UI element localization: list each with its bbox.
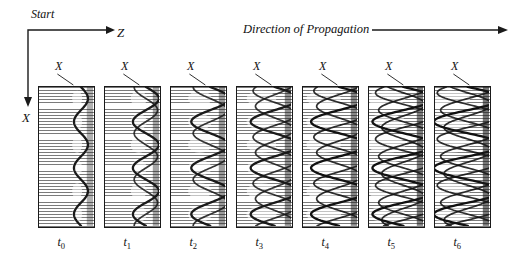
panel-x-label: X bbox=[55, 59, 62, 74]
wave-panel bbox=[236, 86, 293, 228]
panel-time-label: t5 bbox=[387, 235, 395, 251]
wave-propagation-figure: Start Z X Direction of Propagation Xt0Xt… bbox=[0, 0, 514, 266]
panel-x-label: X bbox=[121, 59, 128, 74]
wave-panel bbox=[368, 86, 425, 228]
time-label-index: 1 bbox=[127, 241, 131, 251]
wave-panel bbox=[104, 86, 161, 228]
panel-x-label: X bbox=[253, 59, 260, 74]
panel-time-label: t6 bbox=[453, 235, 461, 251]
panel-time-label: t3 bbox=[255, 235, 263, 251]
start-label: Start bbox=[31, 7, 54, 22]
wave-panel bbox=[38, 86, 95, 228]
x-label-leader-line bbox=[123, 74, 139, 85]
x-label-leader-line bbox=[387, 74, 403, 85]
wave-trace-svg bbox=[435, 87, 489, 226]
z-arrowhead-icon bbox=[106, 26, 115, 34]
time-label-index: 4 bbox=[325, 241, 329, 251]
wave-trace-svg bbox=[237, 87, 291, 226]
panel-x-label: X bbox=[319, 59, 326, 74]
x-arrowhead-icon bbox=[24, 97, 32, 107]
time-label-index: 3 bbox=[259, 241, 263, 251]
panel-time-label: t1 bbox=[123, 235, 131, 251]
x-label-leader-line bbox=[189, 74, 205, 85]
wave-trace bbox=[74, 87, 88, 226]
x-label-leader-line bbox=[321, 74, 337, 85]
x-axis-label: X bbox=[22, 110, 30, 126]
panel-time-label: t2 bbox=[189, 235, 197, 251]
wavefront-band bbox=[351, 87, 357, 226]
time-label-index: 2 bbox=[193, 241, 197, 251]
wave-trace-svg bbox=[303, 87, 357, 226]
wavefront-band bbox=[417, 87, 423, 226]
wavefront-band bbox=[285, 87, 291, 226]
wavefront-band bbox=[219, 87, 225, 226]
propagation-arrowhead-icon bbox=[498, 26, 508, 34]
x-label-leader-line bbox=[255, 74, 271, 85]
z-axis-label: Z bbox=[117, 25, 124, 41]
x-label-leader-line bbox=[453, 74, 469, 85]
wave-panel bbox=[170, 86, 227, 228]
panel-time-label: t4 bbox=[321, 235, 329, 251]
panel-x-label: X bbox=[187, 59, 194, 74]
wave-trace-svg bbox=[105, 87, 159, 226]
propagation-direction-label: Direction of Propagation bbox=[243, 22, 369, 37]
panel-x-label: X bbox=[451, 59, 458, 74]
wavefront-band bbox=[483, 87, 489, 226]
panel-time-label: t0 bbox=[57, 235, 65, 251]
wave-panel bbox=[302, 86, 359, 228]
wavefront-band bbox=[153, 87, 159, 226]
wave-trace-svg bbox=[369, 87, 423, 226]
panel-x-label: X bbox=[385, 59, 392, 74]
wave-trace-svg bbox=[171, 87, 225, 226]
wavefront-band bbox=[87, 87, 93, 226]
x-label-leader-line bbox=[57, 74, 73, 85]
time-label-index: 5 bbox=[391, 241, 395, 251]
time-label-index: 6 bbox=[457, 241, 461, 251]
x-label-leader-lines bbox=[57, 74, 469, 85]
time-label-index: 0 bbox=[61, 241, 65, 251]
wave-panel bbox=[434, 86, 491, 228]
wave-trace-svg bbox=[39, 87, 93, 226]
